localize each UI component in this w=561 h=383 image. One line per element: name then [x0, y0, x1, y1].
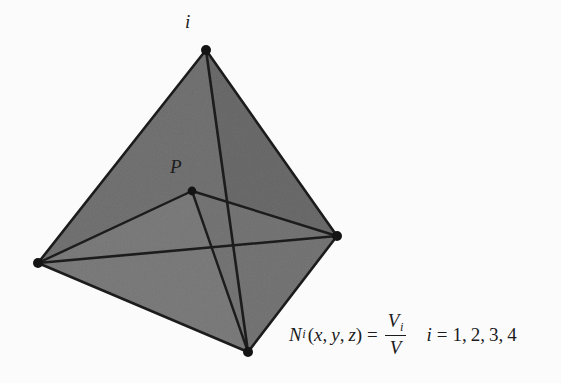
- formula-numerator-symbol: V: [388, 310, 400, 331]
- formula-fraction-denominator: V: [387, 336, 405, 357]
- formula-function-name: N: [289, 325, 302, 344]
- index-variable: i: [426, 324, 431, 345]
- formula-fraction-numerator: Vi: [385, 311, 407, 335]
- formula-separator-1: ,: [322, 325, 327, 344]
- formula-function-subscript: i: [302, 328, 305, 341]
- index-separator-2: ,: [480, 324, 485, 345]
- formula-arg-z: z: [348, 325, 355, 344]
- figure-canvas: i P Ni(x,y,z)= Vi V i=1,2,3,4: [0, 0, 561, 383]
- index-range-annotation: i=1,2,3,4: [426, 325, 516, 344]
- formula-equals-sign: =: [367, 325, 378, 344]
- formula-denominator-symbol: V: [390, 337, 402, 358]
- apex-vertex-label: i: [185, 12, 190, 31]
- formula-close-paren: ): [356, 325, 362, 344]
- formula-arg-x: x: [314, 325, 322, 344]
- index-value-3: 3: [489, 324, 499, 345]
- vertex-dot-interior: [188, 187, 197, 196]
- tetrahedron-faces: [38, 50, 337, 352]
- formula-fraction: Vi V: [385, 311, 407, 358]
- formula-separator-2: ,: [340, 325, 345, 344]
- index-separator-1: ,: [462, 324, 467, 345]
- formula-numerator-subscript: i: [400, 320, 403, 334]
- index-value-1: 1: [452, 324, 462, 345]
- vertex-dot-right: [332, 231, 342, 241]
- shape-function-formula: Ni(x,y,z)= Vi V i=1,2,3,4: [289, 311, 517, 358]
- index-value-2: 2: [471, 324, 481, 345]
- formula-arg-y: y: [331, 325, 339, 344]
- index-separator-3: ,: [498, 324, 503, 345]
- index-value-4: 4: [507, 324, 517, 345]
- vertex-dot-left: [33, 258, 43, 268]
- index-equals-sign: =: [437, 324, 448, 345]
- vertex-dot-bottom: [243, 347, 253, 357]
- vertex-dot-apex: [201, 45, 211, 55]
- interior-point-label: P: [170, 157, 182, 176]
